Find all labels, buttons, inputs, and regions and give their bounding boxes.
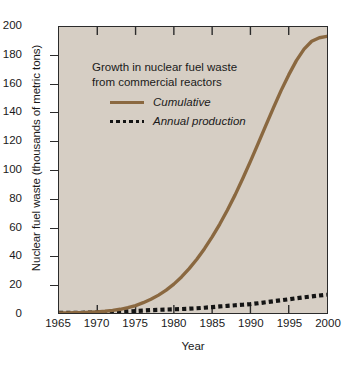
y-tick-label: 80 xyxy=(0,193,22,205)
y-tick-label: 200 xyxy=(0,20,22,32)
legend-item-cumulative: Cumulative xyxy=(92,96,272,108)
nuclear-fuel-waste-chart: Nuclear fuel waste (thousands of metric … xyxy=(0,0,354,365)
y-tick-mark xyxy=(50,55,58,56)
legend: Growth in nuclear fuel waste from commer… xyxy=(92,60,272,127)
y-tick-mark xyxy=(50,199,58,200)
y-tick-mark xyxy=(50,285,58,286)
y-tick-mark xyxy=(50,256,58,257)
y-tick-label: 40 xyxy=(0,251,22,263)
y-tick-label: 60 xyxy=(0,222,22,234)
y-tick-mark xyxy=(50,141,58,142)
y-axis-label: Nuclear fuel waste (thousands of metric … xyxy=(30,18,42,298)
y-tick-mark xyxy=(50,84,58,85)
y-tick-mark xyxy=(50,170,58,171)
legend-label-annual-production: Annual production xyxy=(153,115,246,127)
x-tick-label: 2000 xyxy=(300,318,354,330)
legend-item-annual-production: Annual production xyxy=(92,115,272,127)
legend-label-cumulative: Cumulative xyxy=(153,96,211,108)
legend-swatch-solid-line-icon xyxy=(110,96,144,108)
legend-title: Growth in nuclear fuel waste from commer… xyxy=(92,60,272,89)
y-tick-label: 160 xyxy=(0,78,22,90)
y-tick-label: 20 xyxy=(0,279,22,291)
y-tick-label: 100 xyxy=(0,164,22,176)
y-tick-label: 140 xyxy=(0,107,22,119)
x-axis-label: Year xyxy=(58,340,328,352)
y-tick-mark xyxy=(50,112,58,113)
y-tick-label: 120 xyxy=(0,135,22,147)
y-tick-label: 0 xyxy=(0,308,22,320)
legend-swatch-dotted-line-icon xyxy=(110,115,144,127)
y-tick-label: 180 xyxy=(0,49,22,61)
y-tick-mark xyxy=(50,228,58,229)
